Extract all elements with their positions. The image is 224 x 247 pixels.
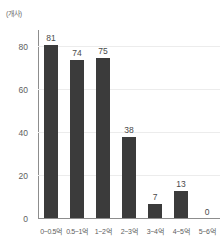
x-axis-line <box>38 218 220 219</box>
x-axis-tick-label: 3~4억 <box>147 226 163 236</box>
bar-slot: 38 <box>116 30 142 219</box>
bar-value-label: 13 <box>168 179 194 189</box>
bar-value-label: 7 <box>142 192 168 202</box>
bar-slot: 75 <box>90 30 116 219</box>
bar-slot: 13 <box>168 30 194 219</box>
bar-value-label: 75 <box>90 46 116 56</box>
y-axis-tick-labels: 020406080 <box>0 0 34 247</box>
x-axis-tick-labels: 0~0.5억0.5~1억1~2억2~3억3~4억4~5억5~6억 <box>38 222 220 246</box>
bar-value-label: 0 <box>194 207 220 217</box>
bar <box>96 58 110 219</box>
y-axis-tick-label: 0 <box>23 214 28 224</box>
bar <box>70 60 84 219</box>
y-axis-tick-label: 60 <box>19 85 28 95</box>
bar <box>44 45 58 219</box>
bar-slot: 7 <box>142 30 168 219</box>
x-axis-tick-label: 0~0.5억 <box>40 226 62 236</box>
bar-slot: 0 <box>194 30 220 219</box>
x-axis-tick-label: 2~3억 <box>121 226 137 236</box>
y-axis-tick-label: 40 <box>19 128 28 138</box>
bar-value-label: 38 <box>116 125 142 135</box>
plot-area: 817475387130 <box>38 30 220 219</box>
bar-slot: 74 <box>64 30 90 219</box>
bar <box>148 204 162 219</box>
bar <box>174 191 188 219</box>
bar-value-label: 81 <box>38 33 64 43</box>
x-axis-tick-label: 0.5~1억 <box>66 226 88 236</box>
bar <box>122 137 136 219</box>
bar-slot: 81 <box>38 30 64 219</box>
bar-chart: (개사) 020406080 817475387130 0~0.5억0.5~1억… <box>0 0 224 247</box>
y-axis-tick-label: 20 <box>19 171 28 181</box>
bar-value-label: 74 <box>64 48 90 58</box>
x-axis-tick-label: 4~5억 <box>173 226 189 236</box>
bars: 817475387130 <box>38 30 220 219</box>
y-axis-tick-label: 80 <box>19 42 28 52</box>
x-axis-tick-label: 1~2억 <box>95 226 111 236</box>
x-axis-tick-label: 5~6억 <box>199 226 215 236</box>
